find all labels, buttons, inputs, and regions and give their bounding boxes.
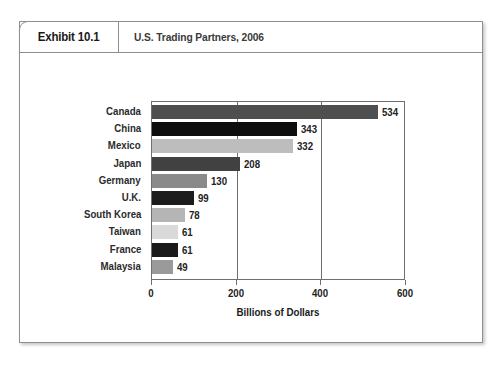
bar [152, 174, 207, 188]
bar [152, 243, 178, 257]
tick-mark [405, 280, 406, 285]
x-tick-label: 400 [312, 287, 328, 299]
bar-value-label: 130 [211, 175, 227, 187]
bar-value-label: 332 [297, 140, 313, 152]
plot-area: 5343433322081309978616149 [151, 101, 405, 280]
bar-row: 130 [152, 174, 229, 188]
bar-row: 61 [152, 225, 194, 239]
bar [152, 105, 378, 119]
exhibit-title-cell: U.S. Trading Partners, 2006 [119, 21, 483, 52]
bar [152, 191, 194, 205]
bar [152, 225, 178, 239]
x-axis-title: Billions of Dollars [160, 306, 396, 318]
bar-row: 61 [152, 243, 194, 257]
bar-value-label: 78 [189, 209, 200, 221]
bar-value-label: 61 [182, 226, 193, 238]
exhibit-header: Exhibit 10.1 U.S. Trading Partners, 2006 [19, 21, 483, 53]
bar-row: 49 [152, 260, 188, 274]
category-label: Malaysia [101, 259, 141, 273]
tick-mark [236, 280, 237, 285]
bar-value-label: 61 [182, 244, 193, 256]
exhibit-title: U.S. Trading Partners, 2006 [134, 31, 264, 43]
bar-value-label: 208 [244, 158, 260, 170]
x-tick-label: 600 [397, 287, 413, 299]
x-tick-label: 200 [228, 287, 244, 299]
bar-value-label: 99 [198, 192, 209, 204]
bar-value-label: 343 [301, 123, 317, 135]
bar-row: 99 [152, 191, 210, 205]
bar-row: 534 [152, 105, 400, 119]
exhibit-number-tab: Exhibit 10.1 [19, 21, 119, 52]
category-label: Taiwan [109, 224, 141, 238]
bar-row: 343 [152, 122, 319, 136]
category-label: France [109, 242, 141, 256]
category-axis-labels: CanadaChinaMexicoJapanGermanyU.K.South K… [20, 101, 146, 280]
bar-value-label: 534 [382, 106, 398, 118]
bar-series: 5343433322081309978616149 [152, 102, 404, 279]
tick-mark [151, 280, 152, 285]
bar-row: 78 [152, 208, 201, 222]
exhibit-card: Exhibit 10.1 U.S. Trading Partners, 2006… [19, 21, 483, 343]
bar [152, 122, 297, 136]
category-label: U.K. [122, 190, 141, 204]
tick-mark [320, 280, 321, 285]
bar [152, 260, 173, 274]
bar [152, 208, 185, 222]
category-label: Japan [113, 156, 141, 170]
exhibit-number-label: Exhibit 10.1 [38, 30, 100, 44]
bar-chart: CanadaChinaMexicoJapanGermanyU.K.South K… [20, 54, 482, 342]
category-label: China [114, 121, 141, 135]
category-label: South Korea [84, 207, 141, 221]
bar-value-label: 49 [177, 261, 188, 273]
x-tick-label: 0 [148, 287, 153, 299]
category-label: Mexico [108, 138, 141, 152]
category-label: Germany [99, 173, 141, 187]
bar-row: 332 [152, 139, 314, 153]
category-label: Canada [106, 104, 141, 118]
bar [152, 139, 293, 153]
bar [152, 157, 240, 171]
bar-row: 208 [152, 157, 262, 171]
